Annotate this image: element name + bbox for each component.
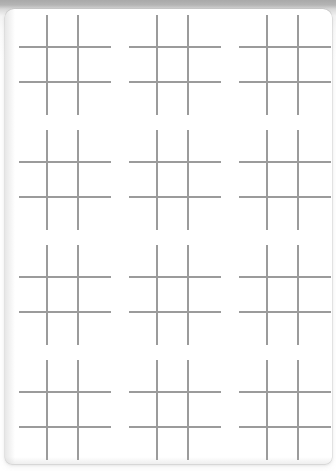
screenshot-viewport [0,0,336,471]
board-vertical-line-left [156,130,158,230]
tic-tac-toe-board[interactable] [129,15,221,115]
board-vertical-line-right [187,245,189,345]
board-horizontal-line-top [19,161,111,163]
board-vertical-line-right [297,15,299,115]
board-horizontal-line-bottom [239,311,331,313]
board-vertical-line-right [77,360,79,460]
board-horizontal-line-bottom [239,426,331,428]
board-horizontal-line-bottom [129,196,221,198]
tic-tac-toe-board[interactable] [239,15,331,115]
board-horizontal-line-top [239,276,331,278]
board-horizontal-line-bottom [129,81,221,83]
tic-tac-toe-board[interactable] [129,130,221,230]
board-vertical-line-left [156,245,158,345]
board-vertical-line-left [266,245,268,345]
board-vertical-line-right [77,245,79,345]
board-vertical-line-left [156,360,158,460]
board-vertical-line-left [266,360,268,460]
worksheet-page [5,9,332,464]
board-horizontal-line-top [129,391,221,393]
board-horizontal-line-top [19,276,111,278]
board-horizontal-line-bottom [239,81,331,83]
board-vertical-line-left [46,15,48,115]
board-vertical-line-right [297,360,299,460]
board-vertical-line-left [266,130,268,230]
board-vertical-line-left [46,245,48,345]
board-vertical-line-right [77,15,79,115]
board-vertical-line-right [77,130,79,230]
tic-tac-toe-board[interactable] [239,245,331,345]
board-horizontal-line-bottom [19,81,111,83]
board-horizontal-line-top [19,46,111,48]
board-horizontal-line-bottom [19,311,111,313]
tic-tac-toe-board[interactable] [19,245,111,345]
tic-tac-toe-board[interactable] [129,360,221,460]
tic-tac-toe-board[interactable] [239,130,331,230]
board-vertical-line-left [156,15,158,115]
board-horizontal-line-top [129,161,221,163]
tic-tac-toe-board[interactable] [19,360,111,460]
board-horizontal-line-top [239,161,331,163]
board-horizontal-line-top [129,46,221,48]
tic-tac-toe-board[interactable] [19,130,111,230]
board-horizontal-line-bottom [129,311,221,313]
board-horizontal-line-top [239,391,331,393]
board-vertical-line-left [266,15,268,115]
board-horizontal-line-bottom [19,426,111,428]
board-horizontal-line-top [129,276,221,278]
board-vertical-line-right [297,130,299,230]
board-horizontal-line-top [19,391,111,393]
tic-tac-toe-board[interactable] [239,360,331,460]
tic-tac-toe-board-field [5,9,332,464]
board-horizontal-line-top [239,46,331,48]
board-vertical-line-right [297,245,299,345]
board-vertical-line-right [187,360,189,460]
board-vertical-line-right [187,15,189,115]
board-vertical-line-right [187,130,189,230]
board-horizontal-line-bottom [19,196,111,198]
board-vertical-line-left [46,130,48,230]
tic-tac-toe-board[interactable] [19,15,111,115]
board-horizontal-line-bottom [129,426,221,428]
board-horizontal-line-bottom [239,196,331,198]
board-vertical-line-left [46,360,48,460]
tic-tac-toe-board[interactable] [129,245,221,345]
